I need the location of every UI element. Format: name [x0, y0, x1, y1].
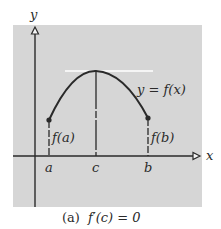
caption-formula: f′(c) = 0 [87, 210, 141, 225]
endpoint-b [145, 115, 150, 120]
curve-label: y = f(x) [136, 82, 186, 97]
caption-label: (a) [62, 210, 80, 225]
value-label-fa: f(a) [51, 130, 75, 145]
tick-label-b: b [144, 160, 152, 175]
tick-label-a: a [45, 160, 53, 175]
y-axis-label: y [29, 7, 38, 22]
endpoint-a [46, 117, 51, 122]
rolle-theorem-diagram: y x y = f(x) f(a) f(b) a c b (a) f′(c) =… [0, 0, 221, 229]
x-axis-label: x [206, 148, 214, 163]
value-label-fb: f(b) [150, 130, 174, 145]
tick-label-c: c [92, 160, 100, 175]
plot-panel [13, 25, 202, 207]
